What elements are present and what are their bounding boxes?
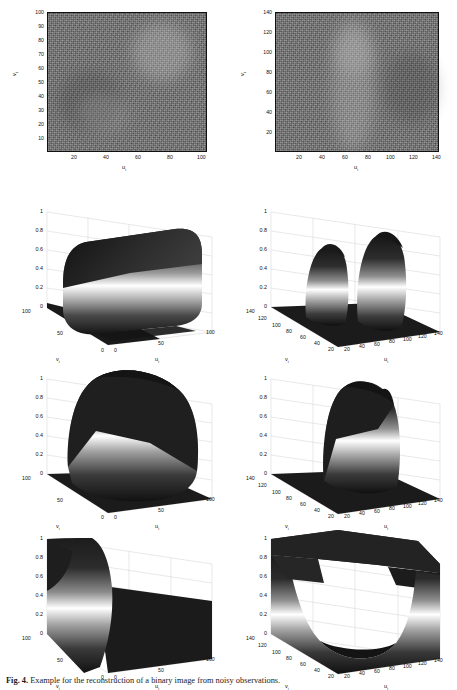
vtick: 50: [57, 498, 63, 503]
utick: 80: [389, 506, 395, 511]
vtick: 120: [258, 483, 267, 488]
image-plot-area-right: [275, 12, 439, 152]
ztick: 0.2: [26, 452, 43, 457]
vtick: 0: [101, 515, 104, 520]
utick: 40: [359, 344, 365, 349]
image-bright-region-2: [78, 93, 128, 133]
ytick: 10: [25, 136, 44, 141]
ytick: 30: [25, 108, 44, 113]
ztick: 0.6: [26, 574, 43, 579]
vtick: 40: [314, 508, 320, 513]
ytick: 100: [253, 50, 272, 55]
utick: 0: [114, 515, 117, 520]
vtick: 50: [57, 658, 63, 663]
utick: 20: [344, 514, 350, 519]
image-dark-region: [384, 53, 438, 123]
ytick: 80: [25, 38, 44, 43]
ztick: 0.4: [250, 266, 267, 271]
panel-surface-row2-left: 1 0.8 0.6 0.4 0.2 0 100 50 0 0 50 100 vi…: [0, 185, 228, 357]
ytick: 140: [253, 10, 272, 15]
ytick: 20: [253, 130, 272, 135]
panel-noisy-image-left: 100 90 80 70 60 50 40 30 20 10 20 40 60 …: [0, 0, 228, 185]
y-axis-label: vi: [240, 72, 247, 76]
figure-panel-grid: 100 90 80 70 60 50 40 30 20 10 20 40 60 …: [0, 0, 457, 690]
ztick: 1: [26, 536, 43, 541]
vtick: 120: [258, 316, 267, 321]
xtick: 80: [167, 155, 173, 160]
ztick: 0.4: [26, 266, 43, 271]
image-bright-region-2: [334, 31, 374, 75]
ztick: 0.6: [26, 247, 43, 252]
panel-noisy-image-right: 140 120 100 80 60 40 20 20 40 60 80 100 …: [228, 0, 457, 185]
x-axis-label-sub: i: [125, 167, 126, 172]
utick: 50: [158, 341, 164, 346]
vtick: 40: [314, 341, 320, 346]
vtick: 80: [286, 656, 292, 661]
utick: 140: [434, 498, 443, 503]
ytick: 70: [25, 52, 44, 57]
ytick: 80: [253, 70, 272, 75]
utick: 100: [206, 497, 215, 502]
panel-surface-row3-left: 1 0.8 0.6 0.4 0.2 0 100 50 0 0 50 100 vi…: [0, 355, 228, 527]
y-axis-label: vi: [12, 72, 19, 76]
ytick: 100: [25, 10, 44, 15]
ytick: 90: [25, 24, 44, 29]
y-axis-label-sub: i: [242, 72, 247, 73]
ytick: 50: [25, 80, 44, 85]
y-axis-label-text: v: [239, 73, 245, 76]
vtick: 40: [314, 668, 320, 673]
ytick: 120: [253, 30, 272, 35]
vtick: 60: [300, 662, 306, 667]
vtick: 100: [272, 490, 281, 495]
vtick: 140: [246, 309, 255, 314]
ztick: 0.2: [250, 612, 267, 617]
xtick: 80: [365, 155, 371, 160]
figure-caption-text: Example for the reconstruction of a bina…: [30, 676, 280, 685]
surface-svg-step-edge: [0, 525, 228, 685]
xtick: 40: [319, 155, 325, 160]
xtick: 100: [386, 155, 395, 160]
y-axis-label-sub: i: [14, 72, 19, 73]
ztick: 0.6: [250, 414, 267, 419]
utick: 40: [359, 511, 365, 516]
ztick: 1: [250, 536, 267, 541]
vtick: 140: [246, 636, 255, 641]
vtick: 80: [286, 329, 292, 334]
utick: 100: [403, 504, 412, 509]
ztick: 1: [26, 209, 43, 214]
vtick: 0: [101, 348, 104, 353]
utick: 120: [418, 661, 427, 666]
vtick: 60: [300, 335, 306, 340]
ztick: 0.6: [250, 574, 267, 579]
ztick: 0.8: [250, 555, 267, 560]
ztick: 0.2: [26, 285, 43, 290]
xtick: 20: [71, 155, 77, 160]
x-axis-label-sub: i: [357, 167, 358, 172]
ytick: 40: [25, 94, 44, 99]
ytick: 20: [25, 122, 44, 127]
xtick: 60: [135, 155, 141, 160]
ztick: 1: [26, 376, 43, 381]
vtick: 100: [272, 650, 281, 655]
utick: 60: [374, 669, 380, 674]
vtick: 140: [246, 476, 255, 481]
ztick: 0.2: [26, 612, 43, 617]
vtick: 60: [300, 502, 306, 507]
utick: 100: [403, 664, 412, 669]
vtick: 100: [22, 476, 31, 481]
ztick: 1: [250, 209, 267, 214]
utick: 100: [403, 337, 412, 342]
utick: 140: [434, 331, 443, 336]
ztick: 0.4: [26, 433, 43, 438]
ztick: 0.8: [250, 228, 267, 233]
xtick: 140: [432, 155, 441, 160]
panel-surface-row3-right: 1 0.8 0.6 0.4 0.2 0 140 120 100 80 60 40…: [228, 355, 457, 527]
y-axis-label-text: v: [11, 73, 17, 76]
vtick: 20: [328, 347, 334, 352]
ztick: 0.2: [250, 285, 267, 290]
panel-surface-row2-right: 1 0.8 0.6 0.4 0.2 0 140 120 100 80 60 40…: [228, 185, 457, 357]
utick: 50: [158, 668, 164, 673]
ztick: 0.4: [26, 593, 43, 598]
utick: 80: [389, 666, 395, 671]
utick: 60: [374, 509, 380, 514]
